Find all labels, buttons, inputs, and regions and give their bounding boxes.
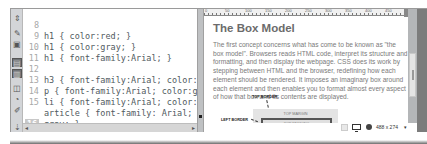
split-view-divider[interactable] <box>197 9 204 132</box>
code-line[interactable]: 9 h1 { color:gray; } <box>23 20 197 31</box>
select-parent-icon[interactable]: ▣ <box>12 40 22 49</box>
design-vertical-scrollbar[interactable] <box>408 9 417 123</box>
code-line[interactable]: 14 li { font-family:Arial; color:gray; } <box>23 75 197 86</box>
window-bottom-edge <box>10 140 427 144</box>
code-line[interactable]: 10 h1 { font-family:Arial; } <box>23 31 197 42</box>
scrollbar-thumb[interactable] <box>409 53 416 97</box>
ruler-label: 150 <box>265 9 272 13</box>
ruler-label: 200 <box>285 9 292 13</box>
scroll-right-arrow-icon[interactable]: ▸ <box>192 124 195 133</box>
status-bar: 488 x 274 ▾ <box>204 123 417 132</box>
code-view[interactable]: 8 h1 { color:red; } 9 h1 { color:gray; }… <box>23 9 197 123</box>
code-line[interactable]: 15 article { font-family: Arial; color: <box>23 86 197 97</box>
ruler-label: 400 <box>365 9 372 13</box>
splitter-handle-icon[interactable] <box>199 115 202 118</box>
page-heading[interactable]: The Box Model <box>213 22 295 34</box>
move-css-icon[interactable]: ✐ <box>12 106 22 115</box>
window-size-value[interactable]: 488 x 274 <box>376 123 398 132</box>
scroll-left-arrow-icon[interactable]: ◂ <box>25 124 28 133</box>
uncomment-icon[interactable]: ▥ <box>12 69 22 78</box>
format-source-icon[interactable]: ⇣ <box>12 123 22 132</box>
top-margin-label: TOP MARGIN <box>253 112 338 116</box>
ruler-label: 350 <box>345 9 352 13</box>
code-line[interactable]: 8 h1 { color:red; } <box>23 9 197 20</box>
code-horizontal-scrollbar[interactable]: ◂ ▸ <box>23 123 197 132</box>
coding-toolbar: ⇕ ✎ ▣ ▤ ▥ ◫ ◔ ✐ ⇣ <box>11 9 23 132</box>
code-line-active[interactable]: 16 </style> <box>23 108 197 119</box>
window-edge <box>417 9 427 132</box>
design-view[interactable]: 0 50 100 150 200 250 300 350 400 450 The… <box>204 9 408 123</box>
horizontal-ruler: 0 50 100 150 200 250 300 350 400 450 <box>204 9 408 16</box>
code-line[interactable]: 13 p { font-family:Arial; color:gray; } <box>23 64 197 75</box>
resize-grip-icon[interactable] <box>341 124 348 131</box>
wand-icon[interactable]: ✎ <box>12 29 22 38</box>
ruler-label: 50 <box>225 9 229 13</box>
ruler-label: 0 <box>205 9 207 13</box>
window-size-dropdown-icon[interactable]: ▾ <box>404 123 407 132</box>
ruler-label: 100 <box>245 9 252 13</box>
monitor-icon[interactable] <box>352 124 361 130</box>
ruler-label: 250 <box>305 9 312 13</box>
comment-icon[interactable]: ▤ <box>12 58 22 67</box>
top-border-label: TOP BORDER <box>252 95 277 99</box>
left-border-label: LEFT BORDER <box>221 118 248 122</box>
code-line[interactable]: 11 <box>23 42 197 53</box>
ruler-label: 300 <box>325 9 332 13</box>
recent-snippets-icon[interactable]: ◔ <box>12 95 22 104</box>
grip-icon <box>412 70 414 80</box>
code-line[interactable]: 12 h3 { font-family:Arial; color:gray; } <box>23 53 197 64</box>
wrap-tag-icon[interactable]: ◫ <box>12 84 22 93</box>
collapse-icon[interactable]: ⇕ <box>12 14 22 23</box>
ruler-label: 450 <box>385 9 392 13</box>
code-line-wrapped[interactable]: gray; } <box>23 97 197 108</box>
preview-globe-icon[interactable] <box>366 124 372 130</box>
page-paragraph[interactable]: The first concept concerns what has come… <box>213 41 408 102</box>
